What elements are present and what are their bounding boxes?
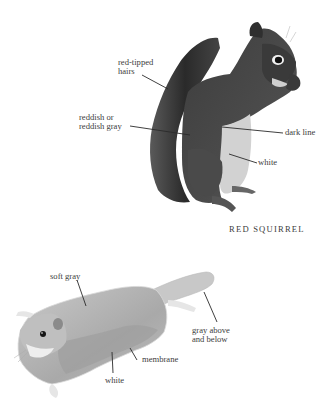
label-white-flying-squirrel: white — [105, 376, 124, 385]
label-reddish-gray: reddish or reddish gray — [79, 113, 122, 131]
label-line-2: and below — [192, 335, 230, 344]
illustration-canvas — [0, 0, 335, 404]
squirrel-belly — [219, 114, 251, 194]
label-gray-above-and-below: gray above and below — [192, 326, 230, 344]
label-line-2: reddish gray — [79, 122, 122, 131]
label-dark-line: dark line — [285, 128, 315, 137]
label-red-tipped-hairs: red-tipped hairs — [118, 58, 153, 76]
label-soft-gray: soft gray — [50, 272, 80, 281]
caption-red-squirrel: RED SQUIRREL — [229, 224, 305, 234]
label-white-red-squirrel: white — [258, 158, 277, 167]
label-membrane: membrane — [142, 355, 178, 364]
label-line-2: hairs — [118, 67, 153, 76]
red-squirrel-illustration — [150, 22, 300, 212]
